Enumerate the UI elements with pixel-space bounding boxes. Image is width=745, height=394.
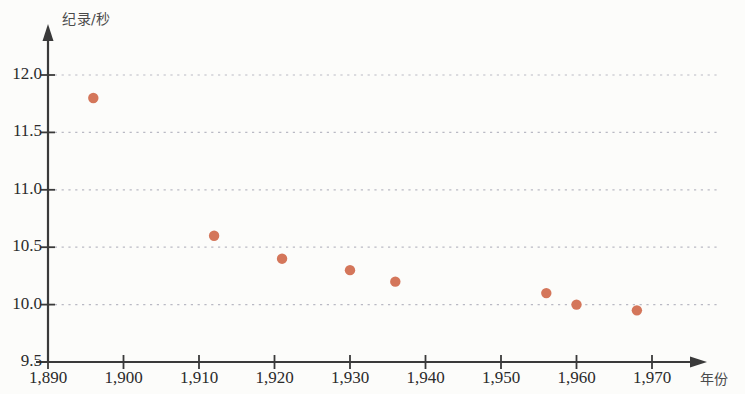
- data-point: [632, 305, 642, 315]
- data-point: [277, 253, 287, 263]
- data-point: [571, 299, 581, 309]
- scatter-plot: 纪录/秒 年份 12.011.511.010.510.09.5 1,8901,9…: [0, 0, 745, 394]
- chart-canvas: [0, 0, 745, 394]
- data-point: [209, 231, 219, 241]
- data-points: [88, 93, 642, 316]
- x-tick-label: 1,900: [84, 368, 164, 388]
- data-point: [541, 288, 551, 298]
- data-point: [345, 265, 355, 275]
- x-tick-label: 1,910: [159, 368, 239, 388]
- y-axis-label: 纪录/秒: [62, 8, 111, 28]
- gridlines: [48, 75, 718, 305]
- x-tick-label: 1,920: [235, 368, 315, 388]
- chart-page: 纪录/秒 年份 12.011.511.010.510.09.5 1,8901,9…: [0, 0, 745, 394]
- x-axis-label: 年份: [700, 368, 728, 388]
- y-tick-label: 11.5: [0, 121, 42, 141]
- x-tick-label: 1,930: [310, 368, 390, 388]
- y-tick-label: 12.0: [0, 64, 42, 84]
- y-tick-label: 10.0: [0, 294, 42, 314]
- x-tick-label: 1,890: [8, 368, 88, 388]
- y-tick-label: 11.0: [0, 179, 42, 199]
- data-point: [88, 93, 98, 103]
- x-tick-label: 1,970: [612, 368, 692, 388]
- x-tick-label: 1,950: [461, 368, 541, 388]
- y-tick-label: 10.5: [0, 236, 42, 256]
- data-point: [390, 276, 400, 286]
- x-tick-label: 1,940: [386, 368, 466, 388]
- x-tick-label: 1,960: [537, 368, 617, 388]
